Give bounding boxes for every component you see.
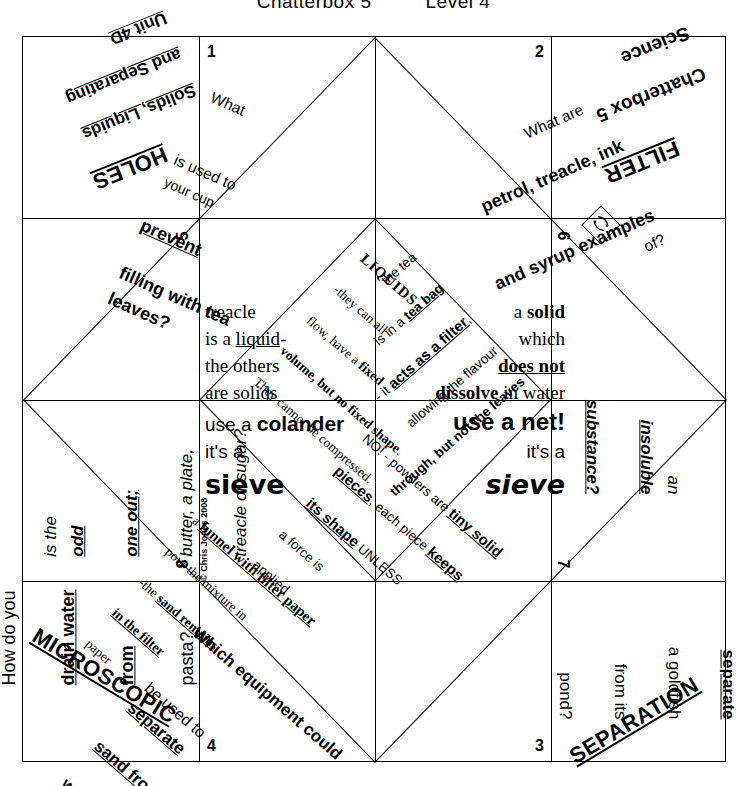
- page-title-name: Chatterbox 5: [257, 0, 372, 12]
- question-number-2: 2: [535, 43, 544, 61]
- page-title-level: Level 4: [426, 0, 491, 12]
- question-6: What is an insoluble substance?: [552, 268, 747, 494]
- question-number-3: 3: [535, 737, 544, 755]
- chatterbox-board: HOLES Solids, Liquids and Separating Uni…: [22, 36, 726, 762]
- answer-insoluble: a solid which does not dissolve in water: [389, 299, 565, 407]
- question-number-5: 5: [174, 232, 192, 241]
- question-number-6: 6: [554, 232, 572, 241]
- question-7: How can you separate a goldfish from its…: [524, 494, 747, 720]
